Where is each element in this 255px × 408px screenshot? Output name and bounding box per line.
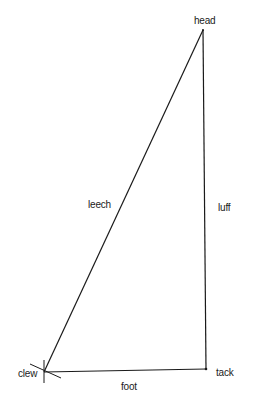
sail-diagram <box>0 0 255 408</box>
tack-corner-dot <box>205 368 208 371</box>
head-label: head <box>194 15 215 27</box>
tack-label: tack <box>216 367 234 379</box>
luff-line <box>203 30 206 369</box>
leech-line <box>44 30 203 372</box>
foot-line <box>44 369 206 372</box>
foot-label: foot <box>121 381 137 393</box>
head-corner-dot <box>202 29 204 31</box>
clew-label: clew <box>18 368 37 380</box>
luff-label: luff <box>218 202 230 214</box>
leech-label: leech <box>88 199 111 211</box>
